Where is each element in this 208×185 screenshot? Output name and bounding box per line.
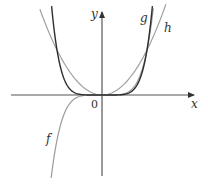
graph-canvas: x y 0 f g h <box>0 0 208 185</box>
power-functions-graph: x y 0 f g h <box>0 0 208 185</box>
origin-label: 0 <box>91 98 98 111</box>
curve-h-label: h <box>164 21 172 35</box>
curve-g-label: g <box>140 11 148 25</box>
curve-f-label: f <box>45 132 53 146</box>
x-axis-label: x <box>191 97 198 111</box>
y-axis-label: y <box>90 7 98 21</box>
